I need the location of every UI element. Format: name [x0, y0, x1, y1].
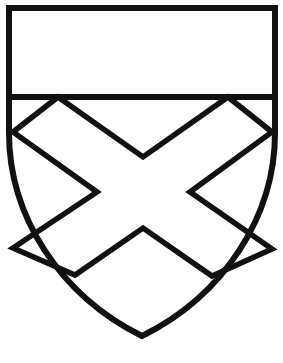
- shield-field: [9, 8, 275, 336]
- heraldic-shield-figure: Heraldic shield: a chief over a saltire: [0, 0, 283, 363]
- shield-drawing: Heraldic shield: a chief over a saltire: [0, 0, 283, 363]
